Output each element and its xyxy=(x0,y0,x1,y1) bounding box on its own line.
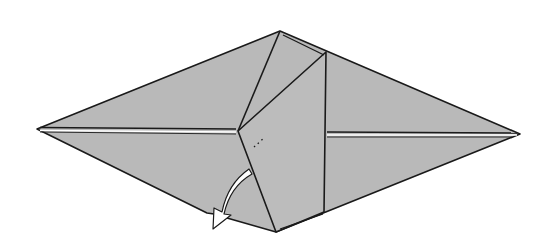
origami-diagram xyxy=(0,0,552,245)
